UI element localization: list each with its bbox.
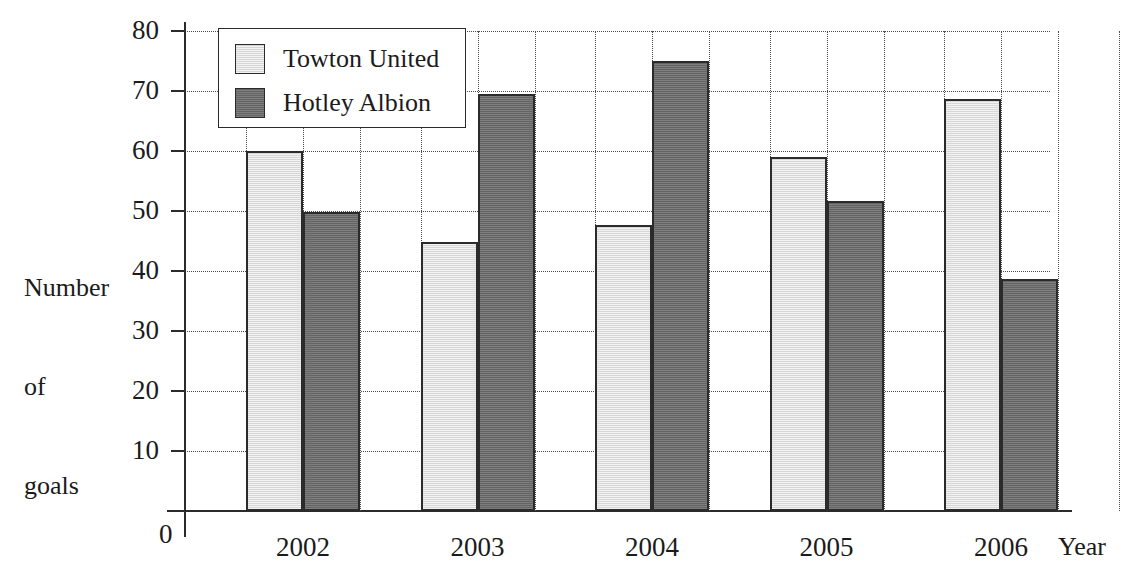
gridline-vertical (535, 31, 536, 511)
legend: Towton United Hotley Albion (218, 28, 466, 128)
bar-2002-hotley-albion (303, 212, 360, 511)
legend-item-hotley-albion: Hotley Albion (235, 83, 465, 123)
y-axis-tick (171, 330, 186, 332)
x-axis-tick-label-2003: 2003 (418, 532, 538, 562)
y-axis-tick (171, 150, 186, 152)
bar-2003-hotley-albion (478, 94, 535, 511)
gridline-horizontal (185, 151, 1050, 152)
y-axis-tick-label: 80 (95, 17, 159, 44)
legend-item-towton-united: Towton United (235, 39, 465, 79)
x-axis-tick-label-2005: 2005 (767, 532, 887, 562)
bar-2005-towton-united (770, 157, 827, 511)
legend-label-towton-united: Towton United (283, 45, 439, 73)
x-axis-title: Year (1058, 532, 1106, 562)
bar-2006-towton-united (944, 99, 1001, 511)
y-axis-tick-labels: 1020304050607080 (95, 0, 159, 579)
y-axis-tick (171, 450, 186, 452)
y-axis-tick (171, 510, 186, 512)
y-axis-tick (171, 270, 186, 272)
y-axis-tick (171, 210, 186, 212)
y-axis-tick (171, 390, 186, 392)
bar-2002-towton-united (246, 151, 303, 511)
x-axis-tick-label-2002: 2002 (243, 532, 363, 562)
legend-swatch-icon-towton-united (235, 44, 265, 74)
y-axis-tick (171, 90, 186, 92)
gridline-vertical (1119, 31, 1120, 511)
bar-2006-hotley-albion (1001, 279, 1058, 511)
bar-2004-hotley-albion (652, 61, 709, 511)
chart-canvas: Number of goals 1020304050607080 0 20022… (0, 0, 1132, 579)
y-axis-tick-label: 60 (95, 137, 159, 164)
y-axis-tick (171, 30, 186, 32)
gridline-vertical (1058, 31, 1059, 511)
y-axis-tick-label: 30 (95, 317, 159, 344)
y-axis-tick-label: 40 (95, 257, 159, 284)
x-axis-tick-label-2004: 2004 (592, 532, 712, 562)
gridline-vertical (884, 31, 885, 511)
origin-zero-label: 0 (159, 519, 173, 549)
y-axis-tick-label: 50 (95, 197, 159, 224)
y-axis-tick-label: 70 (95, 77, 159, 104)
legend-swatch-icon-hotley-albion (235, 88, 265, 118)
gridline-vertical (709, 31, 710, 511)
legend-label-hotley-albion: Hotley Albion (283, 89, 431, 117)
bar-2003-towton-united (421, 242, 478, 511)
y-axis-tick-label: 10 (95, 437, 159, 464)
x-axis-tick-label-2006: 2006 (941, 532, 1061, 562)
bar-2005-hotley-albion (827, 201, 884, 511)
y-axis-tick-label: 20 (95, 377, 159, 404)
bar-2004-towton-united (595, 225, 652, 511)
